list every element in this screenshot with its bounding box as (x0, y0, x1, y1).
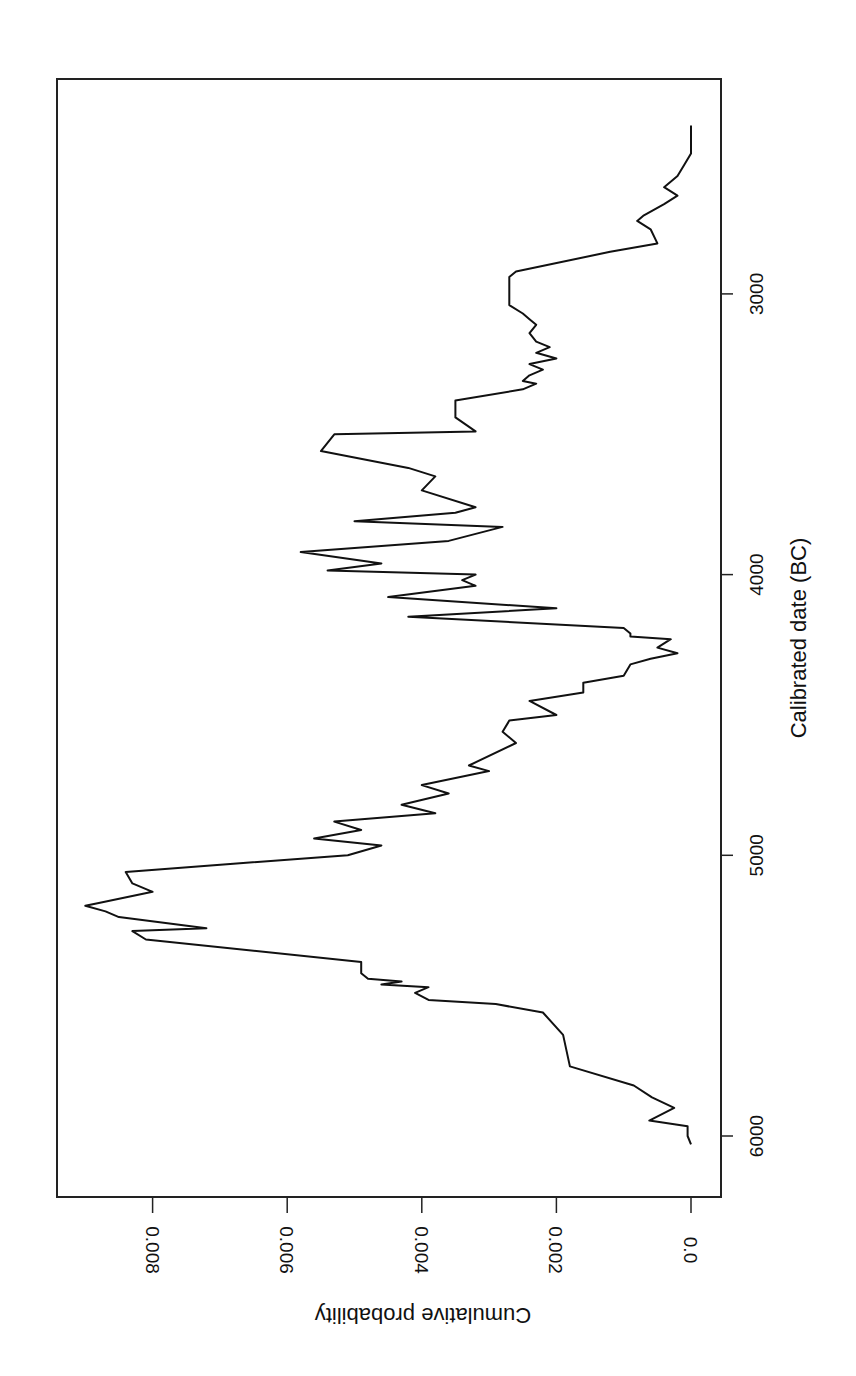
page-background (0, 0, 856, 1376)
probability-tick-label: 0.008 (142, 1226, 163, 1274)
date-axis-title: Calibrated date (BC) (786, 538, 811, 739)
date-tick-label: 6000 (746, 1115, 767, 1157)
probability-tick-label: 0.006 (276, 1226, 297, 1274)
probability-tick-label: 0.004 (411, 1226, 432, 1274)
probability-tick-label: 0.0 (680, 1237, 701, 1263)
probability-tick-label: 0.002 (545, 1226, 566, 1274)
date-tick-label: 5000 (746, 834, 767, 876)
rotated-line-chart: 6000500040003000 0.00.0020.0040.0060.008… (0, 0, 856, 1376)
date-tick-label: 4000 (746, 553, 767, 595)
probability-axis-title: Cumulative probability (315, 1303, 531, 1328)
date-tick-label: 3000 (746, 273, 767, 315)
